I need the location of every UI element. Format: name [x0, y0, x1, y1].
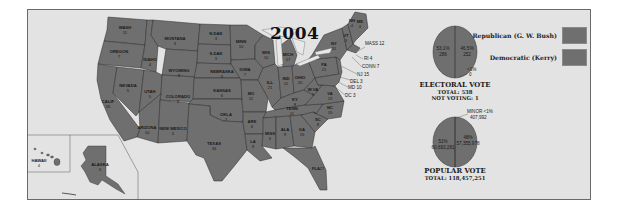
svg-text:NJ 15: NJ 15	[357, 72, 369, 77]
popular-title: POPULAR VOTE	[400, 167, 510, 175]
state-oregon	[98, 41, 145, 68]
svg-text:10: 10	[145, 130, 150, 135]
svg-text:55: 55	[106, 104, 111, 109]
svg-text:11: 11	[290, 111, 295, 116]
svg-text:48%: 48%	[463, 135, 472, 140]
legend-swatch-democratic	[562, 49, 587, 66]
legend-label: Democratic (Kerry)	[490, 54, 557, 61]
svg-text:46.5%: 46.5%	[460, 46, 473, 51]
electoral-title: ELECTORAL VOTE	[405, 81, 505, 89]
svg-text:286: 286	[439, 52, 447, 57]
svg-text:15: 15	[300, 132, 305, 137]
svg-text:13: 13	[328, 96, 333, 101]
svg-text:252: 252	[463, 52, 471, 57]
svg-text:34: 34	[212, 146, 217, 151]
electoral-not-voting: NOT VOTING: 1	[405, 95, 505, 101]
svg-text:53.1%: 53.1%	[436, 46, 449, 51]
svg-text:60,693,281: 60,693,281	[432, 145, 455, 150]
electoral-caption: ELECTORAL VOTE TOTAL: 538 NOT VOTING: 1	[405, 81, 505, 101]
svg-text:CONN 7: CONN 7	[362, 64, 380, 69]
svg-text:57,355,978: 57,355,978	[457, 141, 480, 146]
svg-text:31: 31	[332, 46, 337, 51]
popular-total: TOTAL: 118,457,251	[400, 175, 510, 181]
svg-text:11: 11	[123, 30, 128, 35]
svg-text:17: 17	[286, 57, 291, 62]
svg-text:RI 4: RI 4	[364, 56, 373, 61]
svg-text:407,992: 407,992	[470, 115, 487, 120]
state-alaska	[81, 146, 125, 194]
svg-text:11: 11	[284, 81, 289, 86]
svg-text:51%: 51%	[438, 139, 447, 144]
svg-text:MINOR <1%: MINOR <1%	[467, 109, 493, 114]
svg-text:MD 10: MD 10	[348, 85, 362, 90]
svg-text:DEL 3: DEL 3	[350, 79, 363, 84]
svg-text:21: 21	[322, 67, 327, 72]
hawaii-big-island	[54, 159, 60, 166]
svg-text:21: 21	[268, 85, 273, 90]
state-new-mexico	[158, 100, 189, 143]
legend-label: Republican (G. W. Bush)	[472, 32, 557, 39]
svg-text:MASS 12: MASS 12	[365, 41, 385, 46]
svg-text:4: 4	[38, 163, 41, 168]
svg-text:20: 20	[298, 80, 303, 85]
svg-text:10: 10	[264, 55, 269, 60]
svg-text:27: 27	[320, 166, 325, 171]
popular-caption: POPULAR VOTE TOTAL: 118,457,251	[400, 167, 510, 181]
svg-text:11: 11	[249, 96, 254, 101]
svg-text:DC 3: DC 3	[345, 93, 356, 98]
map-title: 2004	[270, 23, 319, 43]
legend: Republican (G. W. Bush) Democratic (Kerr…	[477, 27, 587, 71]
electoral-pie: 53.1% 286 46.5% 252 <1% 0	[433, 26, 477, 78]
popular-pie: 51% 60,693,281 48% 57,355,978 MINOR <1% …	[432, 109, 493, 167]
svg-text:0: 0	[469, 72, 472, 77]
legend-swatch-republican	[562, 27, 587, 44]
legend-item-republican: Republican (G. W. Bush)	[477, 27, 587, 48]
svg-text:10: 10	[239, 44, 244, 49]
svg-text:15: 15	[328, 110, 333, 115]
legend-item-democratic: Democratic (Kerry)	[477, 49, 587, 70]
